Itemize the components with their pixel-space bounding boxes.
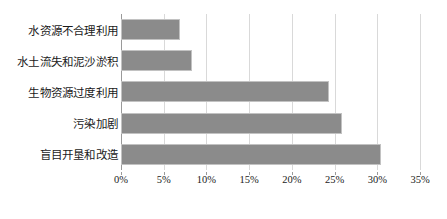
bar[interactable] — [121, 19, 180, 40]
tick-label: 5% — [157, 174, 171, 185]
category-axis: 水资源不合理利用水土流失和泥沙淤积生物资源过度利用污染加剧盲目开垦和改造 — [0, 14, 118, 170]
tick-label: 35% — [410, 174, 429, 185]
bar[interactable] — [121, 81, 329, 102]
tick-label: 30% — [368, 174, 387, 185]
tick-label: 20% — [282, 174, 301, 185]
gridline — [420, 14, 421, 170]
category-label: 生物资源过度利用 — [2, 84, 118, 100]
bar-band — [121, 108, 420, 139]
bar[interactable] — [121, 113, 342, 134]
category-label: 水土流失和泥沙淤积 — [2, 53, 118, 69]
bar-band — [121, 14, 420, 45]
plot-area — [121, 14, 420, 170]
category-label: 污染加剧 — [2, 115, 118, 131]
bar[interactable] — [121, 144, 381, 165]
category-label: 水资源不合理利用 — [2, 22, 118, 38]
tick-label: 10% — [197, 174, 216, 185]
value-axis: 0%5%10%15%20%25%30%35% — [0, 172, 447, 196]
bar-chart: 水资源不合理利用水土流失和泥沙淤积生物资源过度利用污染加剧盲目开垦和改造 0%5… — [0, 0, 447, 219]
tick-label: 15% — [240, 174, 259, 185]
category-label: 盲目开垦和改造 — [2, 146, 118, 162]
tick-label: 0% — [114, 174, 128, 185]
bar-band — [121, 76, 420, 107]
tick-label: 25% — [325, 174, 344, 185]
bar[interactable] — [121, 50, 192, 71]
bar-band — [121, 139, 420, 170]
bar-band — [121, 45, 420, 76]
